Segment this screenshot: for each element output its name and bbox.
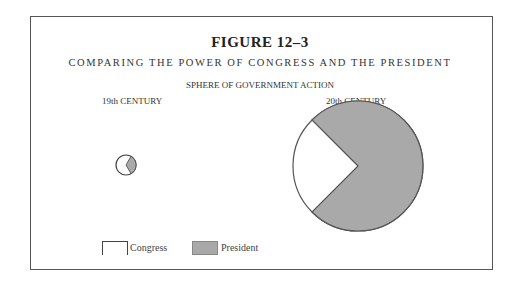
- pie-charts: [0, 0, 520, 286]
- legend-swatch-congress: [102, 241, 128, 255]
- legend-label-congress: Congress: [130, 242, 167, 253]
- legend-swatch-president: [192, 241, 218, 255]
- legend-label-president: President: [221, 242, 258, 253]
- pie-19th-century: [116, 155, 136, 175]
- pie-20th-century: [293, 101, 423, 231]
